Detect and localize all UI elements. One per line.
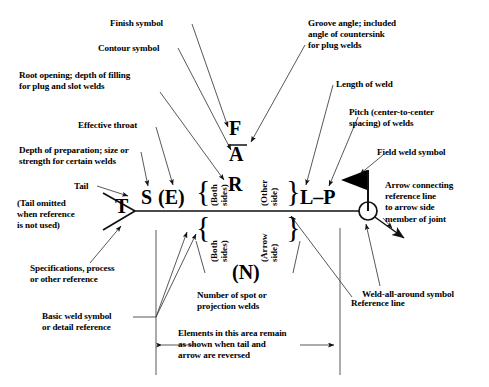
- symbol-number-of-welds: (N): [232, 262, 260, 282]
- callout-tail-omitted: (Tail omitted when reference is not used…: [17, 198, 75, 232]
- callout-depth-of-preparation: Depth of preparation; size or strength f…: [19, 145, 129, 167]
- symbol-contour: A: [229, 144, 243, 164]
- leader-basic-weld-1: [156, 232, 187, 317]
- symbol-finish: F: [229, 118, 241, 138]
- leader-root-opening: [160, 92, 224, 180]
- callout-tail: Tail: [74, 181, 88, 192]
- brace-arrow-side-right: {: [286, 212, 300, 242]
- brace-both-sides-left: {: [196, 212, 210, 242]
- symbol-groove-angle: R: [228, 174, 242, 194]
- label-other-side: (Other side): [260, 180, 279, 206]
- leader-basic-weld-2: [156, 234, 196, 317]
- callout-number-of-spot: Number of spot or projection welds: [197, 290, 267, 312]
- callout-effective-throat: Effective throat: [78, 120, 137, 131]
- leader-number-of-spot-right: [293, 241, 300, 273]
- callout-field-weld-symbol: Field weld symbol: [377, 147, 446, 158]
- symbol-effective-throat: (E): [158, 187, 185, 207]
- welding-symbol-diagram: F A R S (E) T L–P (N) { (Both sides) { (…: [0, 0, 489, 387]
- callout-reference-line: Reference line: [351, 298, 405, 309]
- callout-arrow-connecting: Arrow connecting reference line to arrow…: [385, 180, 453, 225]
- label-arrow-side: (Arrow side): [260, 233, 279, 262]
- callout-pitch-of-welds: Pitch (center-to-center spacing) of weld…: [349, 107, 434, 129]
- callout-contour-symbol: Contour symbol: [98, 43, 159, 54]
- leader-finish-symbol: [192, 24, 228, 127]
- leader-weld-all-around: [366, 224, 380, 286]
- leader-depth-of-preparation: [141, 152, 148, 186]
- leader-contour-symbol: [178, 48, 231, 150]
- leader-effective-throat: [156, 127, 173, 185]
- leader-specifications: [90, 226, 121, 263]
- leader-length-of-weld: [306, 85, 333, 185]
- callout-finish-symbol: Finish symbol: [110, 18, 163, 29]
- label-both-sides-upper: (Both sides): [210, 184, 229, 206]
- symbol-length-pitch: L–P: [300, 187, 336, 207]
- leader-number-of-spot-left: [196, 241, 205, 273]
- callout-specifications: Specifications, process or other referen…: [30, 263, 114, 285]
- callout-groove-angle: Groove angle; included angle of counters…: [308, 18, 396, 52]
- symbol-tail: T: [115, 196, 128, 216]
- callout-elements-remain: Elements in this area remain as shown wh…: [178, 328, 287, 362]
- symbol-depth-size: S: [141, 187, 152, 207]
- callout-root-opening: Root opening; depth of filling for plug …: [19, 70, 130, 92]
- brace-other-side-right: {: [286, 176, 300, 206]
- leader-groove-angle: [251, 45, 305, 142]
- label-both-sides-lower: (Both sides): [210, 240, 229, 262]
- callout-length-of-weld: Length of weld: [336, 79, 393, 90]
- callout-basic-weld-symbol: Basic weld symbol or detail reference: [42, 311, 112, 333]
